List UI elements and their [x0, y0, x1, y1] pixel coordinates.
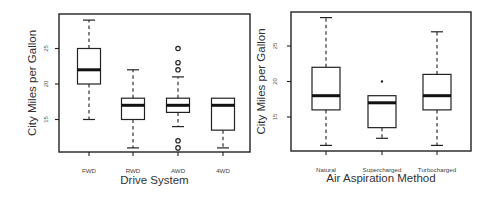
y-tick-label: 15	[43, 116, 49, 123]
outlier-point	[176, 46, 180, 50]
box-awd: AWD	[167, 46, 190, 174]
box-fwd: FWD	[78, 20, 101, 174]
box-rwd: RWD	[122, 70, 145, 174]
x-axis-label: Drive System	[120, 174, 188, 186]
iqr-box	[423, 74, 451, 110]
category-label: Natural	[316, 166, 336, 173]
outlier-point	[176, 139, 180, 143]
y-tick-label: 20	[272, 78, 278, 85]
boxplot-figure: 152025City Miles per GallonDrive SystemF…	[0, 0, 496, 200]
y-axis-label: City Miles per Gallon	[255, 28, 267, 134]
y-axis-label: City Miles per Gallon	[26, 30, 38, 136]
category-label: Turbocharged	[418, 166, 457, 173]
category-label: AWD	[171, 167, 186, 174]
box-4wd: 4WD	[212, 98, 235, 174]
box-turbocharged: Turbocharged	[418, 32, 457, 173]
outlier-point	[176, 61, 180, 65]
y-tick-label: 25	[272, 42, 278, 49]
iqr-box	[122, 98, 145, 119]
x-axis-label: Air Aspiration Method	[326, 172, 435, 184]
outlier-point	[176, 146, 180, 150]
drive-system-boxplot: 152025City Miles per GallonDrive SystemF…	[26, 14, 250, 186]
iqr-box	[212, 98, 235, 130]
iqr-box	[78, 49, 101, 85]
y-tick-label: 20	[43, 80, 49, 87]
air-aspiration-boxplot: 152025City Miles per GallonAir Aspiratio…	[255, 12, 471, 184]
box-natural: Natural	[312, 18, 340, 173]
category-label: 4WD	[216, 167, 230, 174]
iqr-box	[368, 96, 396, 128]
y-tick-label: 25	[43, 45, 49, 52]
category-label: FWD	[82, 167, 97, 174]
category-label: RWD	[126, 167, 141, 174]
iqr-box	[312, 67, 340, 110]
outlier-point	[381, 81, 382, 82]
y-tick-label: 15	[272, 113, 278, 120]
category-label: Supercharged	[363, 166, 402, 173]
outlier-point	[176, 68, 180, 72]
box-supercharged: Supercharged	[363, 81, 402, 173]
